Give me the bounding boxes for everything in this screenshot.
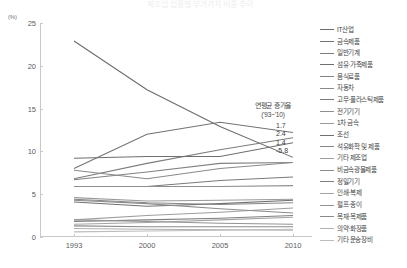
annotation-subtitle: ('93~'10): [238, 110, 308, 119]
legend-color-swatch: [320, 205, 334, 206]
legend-item[interactable]: 목재·목제품: [320, 211, 407, 223]
legend-item[interactable]: 일반기계: [320, 47, 407, 59]
y-axis-unit-label: (%): [8, 14, 17, 20]
legend-item[interactable]: 고무·플라스틱제품: [320, 94, 407, 106]
legend-item[interactable]: 정밀기기: [320, 176, 407, 188]
legend-item-label: 석유화학 및 제품: [337, 143, 380, 151]
legend-item[interactable]: IT산업: [320, 24, 407, 36]
legend-item-label: 금속제품: [337, 38, 360, 46]
legend-color-swatch: [320, 53, 334, 54]
legend-item[interactable]: 음식료품: [320, 71, 407, 83]
legend-item-label: 정밀기기: [337, 178, 360, 186]
annotation-title: 연평균 증가율: [238, 101, 308, 110]
legend-item[interactable]: 금속제품: [320, 36, 407, 48]
legend-color-swatch: [320, 146, 334, 147]
x-tick-label: 2000: [139, 241, 156, 250]
chart-title: 제조업 업종별 부가가치 비중 추이: [60, 0, 340, 9]
plot-area: 0510152025 1993200020052010: [40, 23, 312, 237]
legend-item[interactable]: 섬유·가죽제품: [320, 59, 407, 71]
legend-item[interactable]: 1차 금속: [320, 118, 407, 130]
legend-item-label: 전기기기: [337, 108, 360, 116]
legend-color-swatch: [320, 88, 334, 89]
legend-color-swatch: [320, 228, 334, 229]
growth-rate-value: -5.8: [276, 147, 310, 155]
legend-item-label: 의약·화장품: [337, 225, 367, 233]
growth-rate-value: 1.7: [276, 122, 310, 130]
legend-color-swatch: [320, 64, 334, 65]
legend-item[interactable]: 인쇄·복제: [320, 188, 407, 200]
series-line: [74, 41, 293, 157]
legend-item[interactable]: 전기기기: [320, 106, 407, 118]
y-tick-label: 10: [28, 147, 36, 156]
legend-item-label: 음식료품: [337, 73, 360, 81]
legend-color-swatch: [320, 76, 334, 77]
legend-item-label: 1차 금속: [337, 119, 359, 127]
legend-item-label: 펄프·종이: [337, 201, 361, 209]
legend-item[interactable]: 비금속광물제품: [320, 164, 407, 176]
legend-item-label: 인쇄·복제: [337, 189, 361, 197]
legend-item-label: 조선: [337, 131, 348, 139]
growth-rate-value: 2.4: [276, 130, 310, 138]
y-tick-label: 5: [32, 190, 36, 199]
legend-item-label: 고무·플라스틱제품: [337, 96, 384, 104]
series-line: [74, 186, 293, 187]
legend-color-swatch: [320, 216, 334, 217]
legend-item-label: 목재·목제품: [337, 213, 367, 221]
y-tick-mark: [40, 237, 43, 238]
series-line: [74, 122, 293, 168]
legend-color-swatch: [320, 135, 334, 136]
legend-item[interactable]: 조선: [320, 129, 407, 141]
y-tick-label: 20: [28, 61, 36, 70]
legend-color-swatch: [320, 170, 334, 171]
legend-item[interactable]: 펄프·종이: [320, 199, 407, 211]
legend-color-swatch: [320, 123, 334, 124]
chart-canvas: 제조업 업종별 부가가치 비중 추이 (%) 0510152025 199320…: [0, 0, 407, 268]
x-tick-label: 1993: [66, 241, 83, 250]
legend-color-swatch: [320, 111, 334, 112]
growth-rate-values: 1.72.41.4-5.8: [276, 122, 310, 156]
legend-color-swatch: [320, 240, 334, 241]
growth-rate-value: 1.4: [276, 139, 310, 147]
legend-color-swatch: [320, 99, 334, 100]
legend-color-swatch: [320, 193, 334, 194]
chart-legend: IT산업금속제품일반기계섬유·가죽제품음식료품자동차고무·플라스틱제품전기기기1…: [320, 24, 407, 246]
series-line: [74, 177, 293, 186]
y-tick-label: 15: [28, 104, 36, 113]
series-lines: [40, 23, 312, 237]
legend-color-swatch: [320, 181, 334, 182]
legend-item[interactable]: 석유화학 및 제품: [320, 141, 407, 153]
legend-item-label: 섬유·가죽제품: [337, 61, 373, 69]
series-line: [74, 143, 293, 158]
legend-item[interactable]: 자동차: [320, 82, 407, 94]
legend-item[interactable]: 의약·화장품: [320, 223, 407, 235]
legend-item-label: 기타 운송장비: [337, 236, 372, 244]
legend-item[interactable]: 기타 운송장비: [320, 234, 407, 246]
legend-item-label: 기타 제조업: [337, 154, 367, 162]
legend-item-label: 일반기계: [337, 49, 360, 57]
x-tick-label: 2010: [285, 241, 302, 250]
x-tick-label: 2005: [212, 241, 229, 250]
legend-item-label: 비금속광물제품: [337, 166, 377, 174]
series-line: [74, 226, 293, 227]
legend-item-label: IT산업: [337, 26, 353, 34]
y-tick-label: 25: [28, 19, 36, 28]
legend-item-label: 자동차: [337, 84, 354, 92]
y-tick-label: 0: [32, 233, 36, 242]
legend-color-swatch: [320, 41, 334, 42]
legend-item[interactable]: 기타 제조업: [320, 153, 407, 165]
legend-color-swatch: [320, 158, 334, 159]
legend-color-swatch: [320, 29, 334, 30]
growth-rate-annotation: 연평균 증가율 ('93~'10): [238, 101, 308, 119]
